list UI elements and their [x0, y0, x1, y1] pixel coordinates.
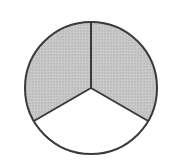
fraction-circle-diagram: Circle divided into three equal sectors: [0, 0, 172, 165]
figure-container: Circle divided into three equal sectors: [0, 0, 172, 165]
